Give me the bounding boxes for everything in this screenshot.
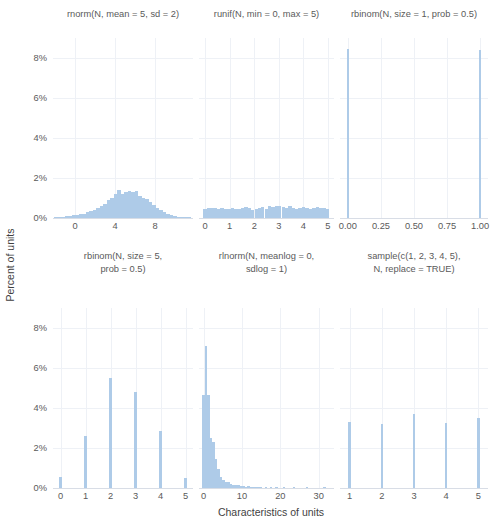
x-axis-line [53, 488, 193, 489]
histogram-bar [445, 423, 447, 488]
gridline-horizontal [53, 408, 193, 409]
gridline-vertical [254, 38, 255, 218]
x-tick-label: 5 [458, 491, 492, 502]
panel-sample [340, 308, 488, 488]
panel-title-sample: sample(c(1, 2, 3, 4, 5), N, replace = TR… [322, 250, 492, 275]
gridline-vertical [155, 38, 156, 218]
x-tick-label: 8 [135, 221, 175, 232]
gridline-vertical [115, 38, 116, 218]
gridline-vertical [319, 308, 320, 488]
x-tick-label: 0 [55, 221, 95, 232]
panel-title-rbinom1: rbinom(N, size = 1, prob = 0.5) [322, 8, 492, 21]
gridline-horizontal [53, 448, 193, 449]
histogram-bar [59, 477, 61, 488]
histogram-bar [347, 49, 349, 218]
panel-rlnorm [199, 308, 334, 488]
x-axis-line [340, 488, 488, 489]
x-axis-line [199, 488, 334, 489]
gridline-horizontal [199, 368, 334, 369]
y-tick-label: 2% [15, 443, 47, 453]
x-tick-label: 20 [260, 491, 300, 502]
gridline-horizontal [53, 328, 193, 329]
gridline-horizontal [199, 408, 334, 409]
gridline-vertical [230, 38, 231, 218]
gridline-horizontal [199, 178, 334, 179]
gridline-horizontal [199, 328, 334, 329]
gridline-vertical [280, 308, 281, 488]
x-tick-label: 0 [184, 491, 224, 502]
gridline-vertical [61, 308, 62, 488]
gridline-horizontal [53, 368, 193, 369]
histogram-bar [479, 50, 481, 218]
gridline-horizontal [199, 98, 334, 99]
gridline-vertical [279, 38, 280, 218]
gridline-horizontal [53, 178, 193, 179]
panel-rnorm [53, 38, 193, 218]
gridline-vertical [186, 308, 187, 488]
gridline-vertical [242, 308, 243, 488]
histogram-bar [477, 418, 479, 488]
histogram-bar [381, 424, 383, 488]
x-axis-line [340, 218, 488, 219]
panel-rbinom5 [53, 308, 193, 488]
histogram-bar [326, 209, 329, 218]
y-tick-label: 0% [15, 213, 47, 223]
x-axis-title: Characteristics of units [56, 506, 486, 518]
gridline-vertical [447, 38, 448, 218]
gridline-vertical [75, 38, 76, 218]
y-tick-label: 0% [15, 483, 47, 493]
y-tick-label: 2% [15, 173, 47, 183]
x-tick-label: 4 [95, 221, 135, 232]
histogram-bar [159, 431, 161, 488]
y-tick-label: 8% [15, 53, 47, 63]
gridline-vertical [328, 38, 329, 218]
gridline-horizontal [199, 448, 334, 449]
histogram-bar [348, 422, 350, 488]
histogram-bar [184, 478, 186, 488]
x-axis-line [53, 218, 193, 219]
histogram-bar [413, 414, 415, 488]
gridline-horizontal [53, 138, 193, 139]
y-tick-label: 4% [15, 133, 47, 143]
y-tick-label: 4% [15, 403, 47, 413]
x-tick-label: 1.00 [460, 221, 492, 232]
gridline-vertical [205, 38, 206, 218]
gridline-vertical [303, 38, 304, 218]
gridline-horizontal [199, 138, 334, 139]
histogram-bar [134, 392, 136, 488]
faceted-histogram-figure: Percent of units Characteristics of unit… [0, 0, 492, 530]
histogram-bar [84, 436, 86, 488]
gridline-horizontal [53, 58, 193, 59]
histogram-bar [109, 378, 111, 488]
y-tick-label: 8% [15, 323, 47, 333]
x-tick-label: 10 [222, 491, 262, 502]
gridline-vertical [414, 38, 415, 218]
gridline-vertical [381, 38, 382, 218]
y-tick-label: 6% [15, 93, 47, 103]
panel-rbinom1 [340, 38, 488, 218]
y-tick-label: 6% [15, 363, 47, 373]
x-axis-line [199, 218, 334, 219]
panel-runif [199, 38, 334, 218]
gridline-horizontal [199, 58, 334, 59]
gridline-horizontal [53, 98, 193, 99]
